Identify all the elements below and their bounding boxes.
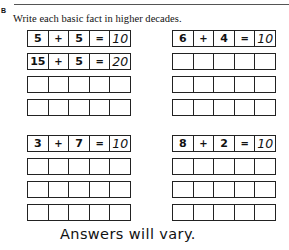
- fact-row: 3+7=10: [27, 135, 131, 152]
- instruction-text: Write each basic fact in higher decades.: [13, 13, 182, 24]
- sum-box[interactable]: [110, 182, 130, 197]
- sum-box[interactable]: [255, 77, 275, 92]
- sum-box: 20: [110, 54, 130, 69]
- addend-1-box: 3: [28, 136, 49, 151]
- addend-2-box[interactable]: [214, 159, 235, 174]
- sum-box[interactable]: [255, 54, 275, 69]
- sum-box: 10: [255, 136, 275, 151]
- addend-1-box[interactable]: [173, 159, 194, 174]
- addend-2-box[interactable]: [214, 77, 235, 92]
- addend-2-box: 5: [69, 31, 90, 46]
- fact-row: [172, 181, 276, 198]
- fact-row: [172, 158, 276, 175]
- equals-sign-box: =: [90, 31, 111, 46]
- addend-1-box: 6: [173, 31, 194, 46]
- sum-box: 10: [110, 136, 130, 151]
- addend-1-box[interactable]: [173, 77, 194, 92]
- sum-box[interactable]: [255, 159, 275, 174]
- plus-sign-box: +: [194, 136, 215, 151]
- plus-sign-box[interactable]: [194, 54, 215, 69]
- addend-1-box[interactable]: [173, 100, 194, 115]
- sum-box[interactable]: [255, 100, 275, 115]
- sum-box[interactable]: [255, 182, 275, 197]
- addend-2-box[interactable]: [69, 182, 90, 197]
- equals-sign-box: =: [90, 136, 111, 151]
- fact-grid-1: 5+5=1015+5=20: [27, 30, 131, 122]
- equals-sign-box[interactable]: [235, 205, 256, 220]
- addend-2-box: 7: [69, 136, 90, 151]
- fact-grid-4: 8+2=10: [172, 135, 276, 227]
- addend-2-box: 2: [214, 136, 235, 151]
- addend-2-box: 5: [69, 54, 90, 69]
- fact-row: 5+5=10: [27, 30, 131, 47]
- plus-sign-box[interactable]: [49, 159, 70, 174]
- fact-row: [27, 181, 131, 198]
- equals-sign-box[interactable]: [90, 182, 111, 197]
- fact-row: [27, 99, 131, 116]
- sum-box: 10: [255, 31, 275, 46]
- sum-box[interactable]: [110, 100, 130, 115]
- fact-grid-2: 6+4=10: [172, 30, 276, 122]
- fact-row: [172, 204, 276, 221]
- plus-sign-box: +: [49, 136, 70, 151]
- addend-2-box: 4: [214, 31, 235, 46]
- sum-box[interactable]: [110, 205, 130, 220]
- equals-sign-box: =: [235, 31, 256, 46]
- addend-2-box[interactable]: [69, 205, 90, 220]
- plus-sign-box[interactable]: [194, 205, 215, 220]
- addend-1-box[interactable]: [28, 100, 49, 115]
- addend-1-box[interactable]: [28, 159, 49, 174]
- addend-2-box[interactable]: [214, 205, 235, 220]
- addend-2-box[interactable]: [214, 54, 235, 69]
- addend-2-box[interactable]: [214, 182, 235, 197]
- equals-sign-box[interactable]: [235, 54, 256, 69]
- fact-row: 8+2=10: [172, 135, 276, 152]
- equals-sign-box: =: [90, 54, 111, 69]
- addend-1-box[interactable]: [173, 54, 194, 69]
- plus-sign-box[interactable]: [194, 159, 215, 174]
- plus-sign-box[interactable]: [194, 77, 215, 92]
- plus-sign-box[interactable]: [49, 205, 70, 220]
- sum-box[interactable]: [255, 205, 275, 220]
- plus-sign-box[interactable]: [194, 182, 215, 197]
- equals-sign-box[interactable]: [90, 100, 111, 115]
- addend-2-box[interactable]: [214, 100, 235, 115]
- addend-1-box[interactable]: [173, 205, 194, 220]
- addend-1-box[interactable]: [28, 182, 49, 197]
- fact-row: 6+4=10: [172, 30, 276, 47]
- equals-sign-box: =: [235, 136, 256, 151]
- addend-1-box: 15: [28, 54, 49, 69]
- equals-sign-box[interactable]: [90, 159, 111, 174]
- plus-sign-box[interactable]: [194, 100, 215, 115]
- addend-1-box[interactable]: [28, 205, 49, 220]
- equals-sign-box[interactable]: [235, 159, 256, 174]
- addend-1-box[interactable]: [28, 77, 49, 92]
- plus-sign-box: +: [49, 31, 70, 46]
- addend-1-box[interactable]: [173, 182, 194, 197]
- equals-sign-box[interactable]: [235, 100, 256, 115]
- addend-2-box[interactable]: [69, 100, 90, 115]
- sum-box[interactable]: [110, 159, 130, 174]
- equals-sign-box[interactable]: [235, 77, 256, 92]
- addend-1-box: 8: [173, 136, 194, 151]
- addend-2-box[interactable]: [69, 159, 90, 174]
- equals-sign-box[interactable]: [235, 182, 256, 197]
- addend-2-box[interactable]: [69, 77, 90, 92]
- plus-sign-box: +: [49, 54, 70, 69]
- plus-sign-box[interactable]: [49, 182, 70, 197]
- fact-row: [27, 158, 131, 175]
- section-label: B: [1, 7, 6, 14]
- plus-sign-box[interactable]: [49, 77, 70, 92]
- plus-sign-box[interactable]: [49, 100, 70, 115]
- fact-row: [172, 76, 276, 93]
- fact-row: [172, 99, 276, 116]
- equals-sign-box[interactable]: [90, 77, 111, 92]
- fact-row: [27, 204, 131, 221]
- plus-sign-box: +: [194, 31, 215, 46]
- sum-box: 10: [110, 31, 130, 46]
- fact-grid-3: 3+7=10: [27, 135, 131, 227]
- equals-sign-box[interactable]: [90, 205, 111, 220]
- addend-1-box: 5: [28, 31, 49, 46]
- sum-box[interactable]: [110, 77, 130, 92]
- fact-row: 15+5=20: [27, 53, 131, 70]
